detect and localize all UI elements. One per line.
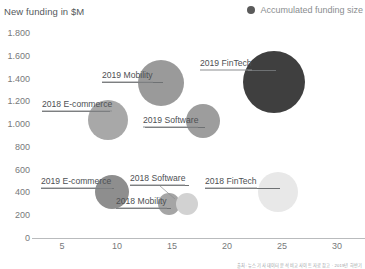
bubble-chart: New funding in $M Accumulated funding si… xyxy=(0,0,365,269)
circle-marker-icon xyxy=(247,6,255,14)
legend-label: Accumulated funding size xyxy=(260,5,363,15)
bubble-point[interactable] xyxy=(176,193,198,215)
y-axis-tick: 1.200 xyxy=(0,96,30,106)
x-axis-tick: 15 xyxy=(167,241,177,251)
y-axis-tick: 600 xyxy=(0,165,30,175)
bubble-label: 2018 FinTech xyxy=(205,176,257,189)
x-axis-tick: 10 xyxy=(112,241,122,251)
source-note: 출처: 뉴스 기사 데이터 분석 비교 사이트 자료 참고 · 2019년 하반… xyxy=(237,262,362,268)
bubble-leader-line xyxy=(41,188,114,189)
chart-legend: Accumulated funding size xyxy=(247,5,363,15)
y-axis-tick: 1.000 xyxy=(0,119,30,129)
bubble-label: 2018 Mobility xyxy=(116,196,167,209)
bubble-label: 2018 E-commerce xyxy=(42,99,112,112)
bubble-leader-line xyxy=(102,82,163,83)
x-axis-tick: 5 xyxy=(59,241,64,251)
y-axis-tick: 400 xyxy=(0,187,30,197)
bubble-label: 2019 Mobility xyxy=(102,70,153,83)
y-axis-tick: 200 xyxy=(0,210,30,220)
x-axis-tick: 20 xyxy=(222,241,232,251)
bubble-leader-line xyxy=(42,111,110,112)
y-axis-tick: 1.600 xyxy=(0,51,30,61)
bubble-leader-line xyxy=(116,208,171,209)
bubble-label: 2019 Software xyxy=(143,115,198,128)
x-axis-tick: 30 xyxy=(332,241,342,251)
bubble-leader-line xyxy=(248,70,276,71)
bubble-leader-line xyxy=(145,127,205,128)
bubble-point[interactable] xyxy=(138,60,184,106)
x-axis-line xyxy=(32,238,365,239)
y-axis-tick: 1.800 xyxy=(0,28,30,38)
x-axis-tick: 25 xyxy=(277,241,287,251)
y-axis-tick-labels: 02004006008001.0001.2001.4001.6001.800 xyxy=(0,0,30,269)
bubble-label: 2018 Software xyxy=(130,173,185,186)
software-connector-line xyxy=(0,0,365,269)
bubble-point[interactable] xyxy=(258,172,298,212)
y-axis-tick: 0 xyxy=(0,233,30,243)
bubble-label: 2019 E-commerce xyxy=(41,176,112,189)
y-axis-tick: 800 xyxy=(0,142,30,152)
bubble-label: 2019 FinTech xyxy=(200,58,252,71)
bubble-leader-line xyxy=(130,185,189,186)
bubble-leader-line xyxy=(205,188,280,189)
y-axis-tick: 1.400 xyxy=(0,74,30,84)
bubble-point[interactable] xyxy=(243,51,305,113)
